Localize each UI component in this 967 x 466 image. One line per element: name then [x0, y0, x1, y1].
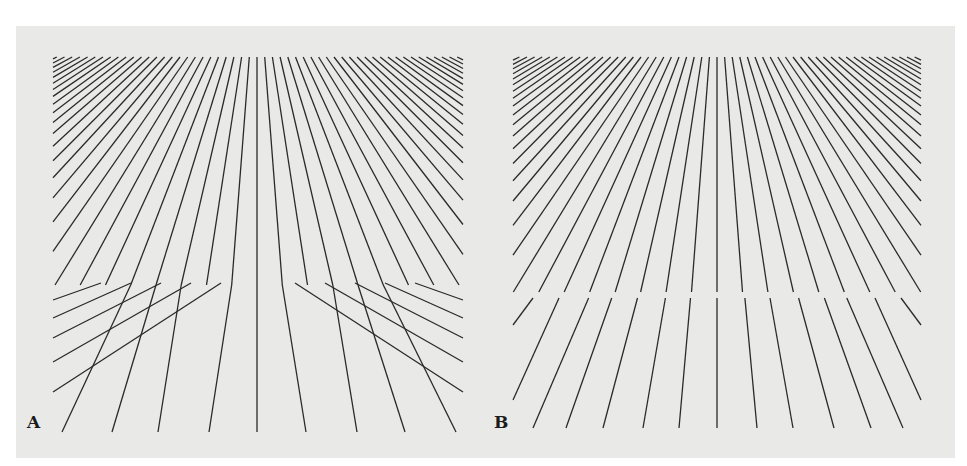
fan-line [901, 298, 921, 325]
fan-line [732, 57, 768, 292]
fan-line [53, 57, 57, 59]
fan-line [207, 57, 242, 285]
fan-line [53, 57, 188, 251]
fan-line [692, 57, 710, 292]
fan-line [603, 298, 638, 428]
fan-line [763, 57, 870, 292]
panel-a-label: A [27, 412, 40, 432]
fan-line [158, 285, 181, 432]
fan-line [770, 57, 895, 292]
fan-line [513, 57, 649, 255]
fan-line [513, 57, 519, 60]
fan-line [295, 283, 463, 392]
panel-a-line-fan [53, 57, 463, 432]
fan-line [513, 57, 550, 79]
fan-line [265, 57, 283, 285]
fan-line [907, 57, 921, 64]
fan-line [209, 285, 232, 432]
fan-line [615, 57, 686, 292]
fan-line [380, 57, 463, 124]
fan-line [457, 57, 463, 60]
fan-line [745, 298, 757, 428]
fan-line [53, 283, 131, 318]
fan-line [53, 57, 134, 123]
fan-line [326, 57, 463, 254]
fan-line [53, 283, 221, 392]
fan-line [892, 57, 921, 74]
fan-line [643, 298, 665, 428]
fan-line [53, 57, 118, 104]
fan-line [539, 57, 664, 292]
fan-line [311, 57, 434, 285]
fan-line [513, 57, 542, 74]
fan-line [272, 57, 307, 285]
fan-line [232, 57, 250, 285]
fan-line [282, 285, 306, 432]
fan-line [799, 298, 834, 428]
fan-line [566, 298, 612, 428]
fan-line [513, 57, 527, 64]
fan-line [513, 57, 626, 181]
fan-line [666, 57, 702, 292]
fan-line [325, 283, 463, 362]
fan-line [415, 283, 463, 300]
fan-line [288, 57, 358, 285]
fan-line [513, 57, 588, 115]
fan-line [747, 57, 818, 292]
illusion-figure [0, 0, 967, 466]
fan-line [513, 57, 618, 164]
fan-line [793, 57, 921, 225]
fan-line [388, 57, 463, 114]
fan-line [426, 57, 463, 79]
fan-line [280, 57, 333, 285]
fan-line [334, 57, 463, 225]
fan-line [349, 57, 463, 180]
panel-b-line-fan [513, 57, 921, 428]
fan-line [357, 57, 463, 163]
fan-line [740, 57, 794, 292]
fan-line [181, 57, 234, 285]
fan-line [533, 298, 589, 428]
fan-line [106, 57, 211, 285]
fan-line [875, 298, 921, 400]
fan-line [785, 57, 921, 255]
fan-line [80, 57, 203, 285]
fan-line [434, 57, 463, 73]
fan-line [358, 285, 405, 432]
fan-line [770, 298, 793, 428]
fan-line [513, 298, 533, 325]
fan-line [884, 57, 921, 79]
fan-line [808, 57, 921, 181]
fan-line [513, 57, 641, 225]
fan-line [816, 57, 921, 164]
fan-line [725, 57, 743, 292]
fan-line [846, 57, 921, 115]
fan-line [53, 57, 180, 222]
fan-line [333, 285, 357, 432]
fan-line [303, 57, 408, 285]
fan-line [383, 285, 456, 432]
fan-line [53, 283, 101, 300]
fan-line [847, 298, 903, 428]
fan-line [564, 57, 671, 292]
fan-line [156, 57, 226, 285]
fan-line [641, 57, 695, 292]
fan-line [915, 57, 921, 60]
fan-line [62, 285, 131, 432]
panel-b-label: B [494, 412, 508, 432]
fan-line [824, 298, 871, 428]
fan-line [679, 298, 691, 428]
